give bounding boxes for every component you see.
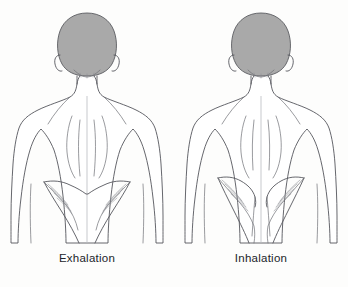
caption-exhalation: Exhalation xyxy=(0,252,174,264)
anatomy-figure: .ln { fill:none; stroke:#55565c; stroke-… xyxy=(0,0,348,287)
figure-illustration: .ln { fill:none; stroke:#55565c; stroke-… xyxy=(0,0,348,287)
caption-inhalation: Inhalation xyxy=(174,252,348,264)
